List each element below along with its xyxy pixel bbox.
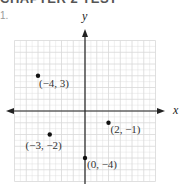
x-axis-arrow-left-icon bbox=[6, 108, 14, 114]
y-axis-label: y bbox=[81, 9, 88, 23]
point-label: (−3, −2) bbox=[26, 139, 63, 152]
y-axis-arrow-up-icon bbox=[82, 29, 88, 37]
x-axis-label: x bbox=[172, 103, 179, 117]
data-points: (−4, 3)(−3, −2)(2, −1)(0, −4) bbox=[26, 74, 141, 171]
point-label: (−4, 3) bbox=[39, 77, 69, 90]
data-point bbox=[48, 132, 52, 136]
x-axis-arrow-right-icon bbox=[157, 108, 165, 114]
point-label: (2, −1) bbox=[111, 123, 141, 136]
coordinate-plane: x y (−4, 3)(−3, −2)(2, −1)(0, −4) bbox=[0, 0, 186, 184]
point-label: (0, −4) bbox=[87, 158, 117, 171]
